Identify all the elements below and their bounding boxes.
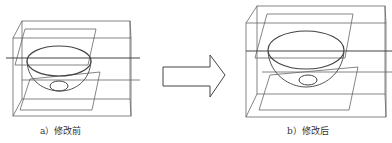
panel-a-model [6, 21, 140, 116]
transition-arrow [163, 55, 225, 97]
bowl-bottom [299, 75, 317, 85]
bowl-bottom [50, 81, 68, 91]
box-front-face [246, 23, 386, 117]
caption-after: b）修改后 [287, 124, 329, 137]
bowl-rim [268, 31, 344, 69]
box-back-face [257, 6, 385, 94]
box-front-face [13, 38, 131, 116]
panel-b-model [246, 6, 392, 117]
lower-plane [259, 67, 358, 110]
caption-before: a）修改前 [40, 124, 81, 137]
diagram-canvas [0, 0, 392, 143]
bowl-rim [27, 46, 91, 76]
